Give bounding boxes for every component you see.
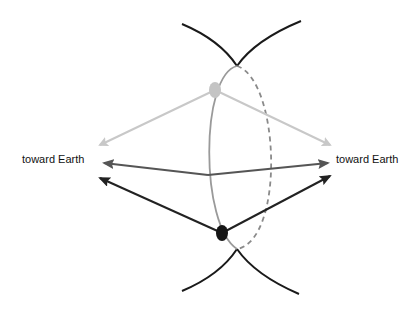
- lower-left-cusp-curve: [182, 249, 237, 291]
- dark-arrow-left: [100, 178, 222, 233]
- mid-arrow-right: [208, 163, 328, 175]
- upper-left-cusp-curve: [182, 24, 237, 66]
- light-arrow-left: [100, 90, 215, 145]
- dark-arrow-right: [222, 176, 330, 233]
- light-arrow-right: [215, 90, 330, 145]
- light-gray-dot: [209, 82, 221, 98]
- lower-right-cusp-curve: [237, 249, 299, 294]
- dark-dot: [216, 225, 228, 241]
- label-toward-earth-right: toward Earth: [336, 153, 398, 165]
- upper-right-cusp-curve: [237, 21, 301, 66]
- mid-arrow-left: [104, 163, 208, 175]
- label-toward-earth-left: toward Earth: [22, 153, 84, 165]
